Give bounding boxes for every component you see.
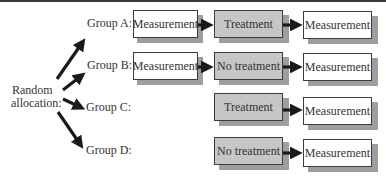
allocation-arrow-to-group-c [63,99,80,107]
allocation-arrow-to-group-d [58,112,80,144]
allocation-arrow-to-group-b [63,76,81,90]
flow-arrows [0,0,386,182]
allocation-arrow-to-group-a [57,43,82,79]
